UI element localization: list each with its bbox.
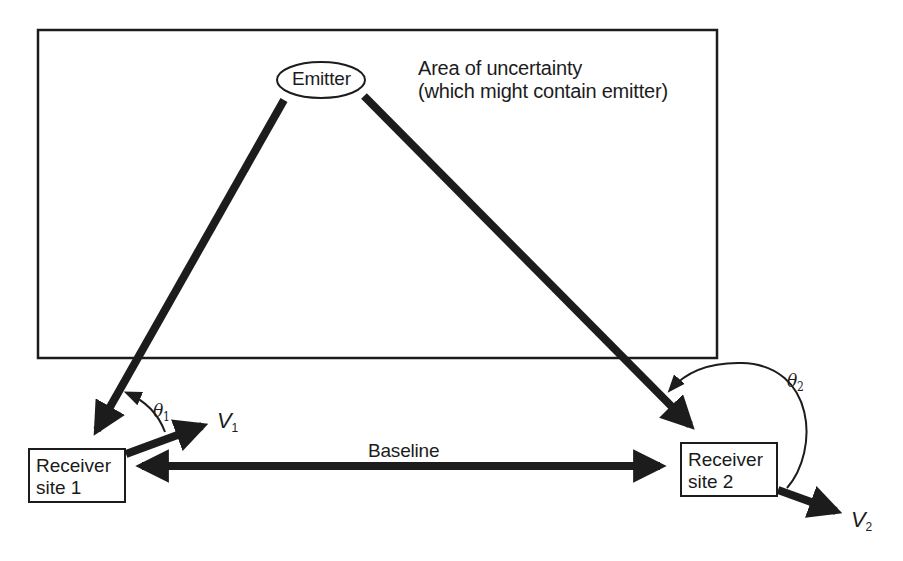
emitter-to-receiver1-arrow <box>97 100 284 430</box>
v2-label: V2 <box>851 507 872 535</box>
theta2-subscript: 2 <box>797 380 804 394</box>
emitter-label: Emitter <box>292 68 351 90</box>
receiver-site-2-box: Receiver site 2 <box>680 442 778 497</box>
uncertainty-area-label-line2: (which might contain emitter) <box>418 80 668 103</box>
theta2-symbol: θ <box>787 369 797 391</box>
receiver-site-1-box: Receiver site 1 <box>28 448 126 503</box>
v2-symbol: V <box>851 507 865 532</box>
baseline-label: Baseline <box>368 440 439 462</box>
v2-velocity-arrow <box>778 490 836 511</box>
theta1-label: θ1 <box>153 400 170 425</box>
v1-symbol: V <box>217 408 231 433</box>
receiver-site-1-line2: site 1 <box>36 475 118 500</box>
uncertainty-area-label: Area of uncertainty (which might contain… <box>418 57 668 103</box>
theta2-label: θ2 <box>787 370 804 395</box>
v2-subscript: 2 <box>865 520 871 534</box>
theta1-symbol: θ <box>153 399 163 421</box>
uncertainty-area-label-line1: Area of uncertainty <box>418 57 668 80</box>
v1-label: V1 <box>217 408 238 436</box>
receiver-site-2-line2: site 2 <box>688 469 770 494</box>
theta1-subscript: 1 <box>163 410 170 424</box>
emitter-to-receiver2-arrow <box>364 96 690 425</box>
v1-subscript: 1 <box>231 421 237 435</box>
